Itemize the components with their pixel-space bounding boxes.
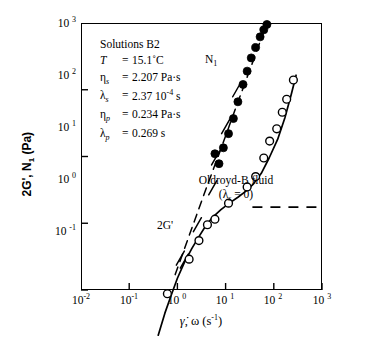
param-symbol-T: T xyxy=(100,52,122,68)
param-eq-0: = xyxy=(122,52,132,68)
param-symbol-lambda-p: λp xyxy=(100,125,122,144)
param-row-lambda-p: λp = 0.269 s xyxy=(100,125,181,144)
ytick-label-0: 10 -1 xyxy=(36,224,76,237)
param-eq-1: = xyxy=(122,69,132,88)
xtick-label-5: 10 3 xyxy=(313,293,331,306)
param-value-T: 15.1˚C xyxy=(132,52,164,68)
xtick-label-4: 10 2 xyxy=(264,293,282,306)
param-eq-4: = xyxy=(122,125,132,144)
param-value-lambda-s: 2.37 10-4 s xyxy=(132,87,181,106)
param-symbol-sub-1: s xyxy=(106,77,109,86)
param-value-unit-2: s xyxy=(173,90,180,102)
ytick-label-2: 10 1 xyxy=(36,120,76,133)
annotation-oldroyd-b: Oldroyd-B fluid (λs = 0) xyxy=(199,173,273,205)
param-row-lambda-s: λs = 2.37 10-4 s xyxy=(100,87,181,106)
param-symbol-eta-s: ηs xyxy=(100,69,122,88)
param-value-mantissa-2: 2.37 10 xyxy=(132,90,167,102)
parameter-annotation-block: Solutions B2 T = 15.1˚C ηs = 2.207 Pa·s … xyxy=(100,36,181,143)
oldroyd-value: = 0) xyxy=(231,188,253,200)
n1-label-sub: 1 xyxy=(213,59,217,68)
param-value-eta-p: 0.234 Pa·s xyxy=(132,106,181,125)
param-value-lambda-p: 0.269 s xyxy=(132,125,165,144)
x-axis-close: ) xyxy=(218,314,222,328)
param-eq-3: = xyxy=(122,106,132,125)
param-symbol-lambda-s: λs xyxy=(100,87,122,106)
y-axis-title: 2G', N1 (Pa) xyxy=(20,104,36,224)
xtick-label-2: 10 0 xyxy=(168,293,186,306)
param-row-temperature: T = 15.1˚C xyxy=(100,52,181,68)
y-axis-sub: 1 xyxy=(27,158,36,162)
param-row-eta-p: ηp = 0.234 Pa·s xyxy=(100,106,181,125)
series-label-n1: N1 xyxy=(205,52,217,69)
param-symbol-sub-2: s xyxy=(106,96,109,105)
x-axis-rest: , ω (s xyxy=(185,314,212,328)
param-row-eta-s: ηs = 2.207 Pa·s xyxy=(100,69,181,88)
y-axis-unit: (Pa) xyxy=(20,132,34,158)
xtick-label-3: 10 1 xyxy=(216,293,234,306)
twog-label-text: 2G' xyxy=(157,219,173,231)
xtick-label-0: 10-2 xyxy=(72,293,90,306)
ytick-label-1: 10 0 xyxy=(36,172,76,185)
param-value-eta-s: 2.207 Pa·s xyxy=(132,69,181,88)
x-axis-title: γ̇, ω (s-1) xyxy=(180,313,222,329)
solution-title: Solutions B2 xyxy=(100,36,160,52)
ytick-label-4: 10 3 xyxy=(36,16,76,29)
param-eq-2: = xyxy=(122,87,132,106)
ytick-label-3: 10 2 xyxy=(36,68,76,81)
chart-figure: 10-2 10-1 10 0 10 1 10 2 10 3 10 3 10 2 … xyxy=(0,0,372,347)
xtick-label-1: 10-1 xyxy=(120,293,138,306)
param-symbol-sub-4: p xyxy=(106,133,110,142)
oldroyd-line-2: (λs = 0) xyxy=(199,187,273,204)
oldroyd-line-1: Oldroyd-B fluid xyxy=(199,173,273,187)
param-title-row: Solutions B2 xyxy=(100,36,181,52)
param-symbol-eta-p: ηp xyxy=(100,106,122,125)
y-axis-main: 2G', N xyxy=(20,162,34,196)
param-symbol-sub-3: p xyxy=(106,114,110,123)
series-label-2g: 2G' xyxy=(157,218,173,232)
